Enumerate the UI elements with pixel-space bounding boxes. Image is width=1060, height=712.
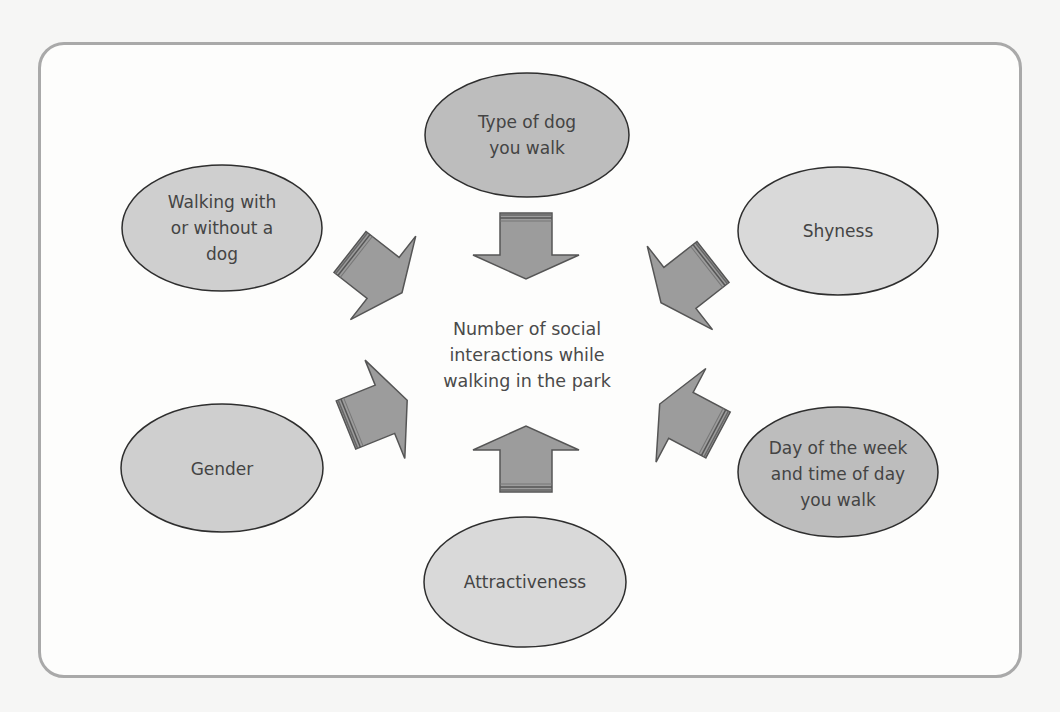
- arrow-from-walking-with-dog: [317, 210, 434, 334]
- arrow-from-type-of-dog: [473, 213, 579, 279]
- node-walking-with-dog-label: Walking with or without a dog: [168, 189, 276, 267]
- arrow-from-day-time: [635, 357, 743, 482]
- node-shyness-label: Shyness: [803, 218, 874, 244]
- node-type-of-dog-label: Type of dog you walk: [478, 109, 576, 161]
- center-outcome-label: Number of social interactions while walk…: [443, 316, 611, 394]
- arrow-from-shyness: [628, 220, 745, 344]
- arrow-from-attractiveness: [473, 426, 579, 492]
- node-gender-label: Gender: [191, 456, 254, 482]
- node-day-time-label: Day of the week and time of day you walk: [769, 435, 908, 513]
- node-attractiveness-label: Attractiveness: [464, 569, 586, 595]
- arrow-from-gender: [326, 351, 427, 474]
